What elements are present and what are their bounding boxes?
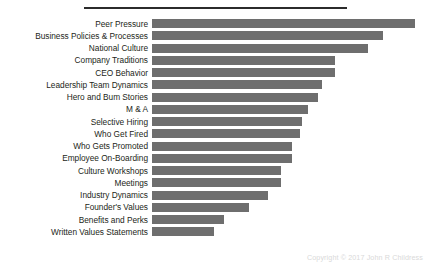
- bar-category-label: Employee On-Boarding: [0, 153, 148, 163]
- bar-category-label: Culture Workshops: [0, 166, 148, 176]
- bar-category-label: Selective Hiring: [0, 117, 148, 127]
- bar-fill: [152, 215, 224, 224]
- bar-category-label: Who Get Fired: [0, 129, 148, 139]
- bar-row: Meetings: [0, 178, 433, 190]
- bar-track: [152, 68, 335, 77]
- bar-row: Who Get Fired: [0, 129, 433, 141]
- bar-track: [152, 56, 335, 65]
- bar-category-label: Benefits and Perks: [0, 215, 148, 225]
- bar-fill: [152, 93, 318, 102]
- bar-fill: [152, 191, 268, 200]
- bar-row: Who Gets Promoted: [0, 142, 433, 154]
- bar-track: [152, 117, 302, 126]
- bar-row: Peer Pressure: [0, 19, 433, 31]
- bar-category-label: Founder's Values: [0, 202, 148, 212]
- bar-track: [152, 178, 281, 187]
- bar-category-label: Who Gets Promoted: [0, 141, 148, 151]
- culture-drivers-bar-chart: Peer PressureBusiness Policies & Process…: [0, 0, 433, 272]
- bar-row: Hero and Bum Stories: [0, 93, 433, 105]
- bar-row: Founder's Values: [0, 203, 433, 215]
- bar-fill: [152, 80, 322, 89]
- bar-row: Culture Workshops: [0, 166, 433, 178]
- chart-plot-area: Peer PressureBusiness Policies & Process…: [0, 19, 433, 259]
- bar-track: [152, 227, 214, 236]
- bar-track: [152, 129, 300, 138]
- bar-fill: [152, 44, 368, 53]
- bar-fill: [152, 56, 335, 65]
- bar-fill: [152, 129, 300, 138]
- bar-track: [152, 203, 249, 212]
- bar-row: Written Values Statements: [0, 227, 433, 239]
- bar-fill: [152, 19, 415, 28]
- bar-track: [152, 93, 318, 102]
- bar-row: Company Traditions: [0, 56, 433, 68]
- copyright-notice: Copyright © 2017 John R Childress: [307, 253, 423, 262]
- bar-track: [152, 166, 281, 175]
- bar-track: [152, 215, 224, 224]
- bar-track: [152, 19, 415, 28]
- bar-row: M & A: [0, 105, 433, 117]
- bar-row: CEO Behavior: [0, 68, 433, 80]
- bar-category-label: Written Values Statements: [0, 227, 148, 237]
- bar-fill: [152, 154, 292, 163]
- bar-category-label: Hero and Bum Stories: [0, 92, 148, 102]
- bar-track: [152, 105, 308, 114]
- bar-fill: [152, 68, 335, 77]
- bar-row: Selective Hiring: [0, 117, 433, 129]
- bar-track: [152, 31, 383, 40]
- bar-category-label: Meetings: [0, 178, 148, 188]
- bar-category-label: Peer Pressure: [0, 19, 148, 29]
- bar-category-label: Leadership Team Dynamics: [0, 80, 148, 90]
- bar-track: [152, 191, 268, 200]
- bar-fill: [152, 178, 281, 187]
- bar-row: Benefits and Perks: [0, 215, 433, 227]
- bar-category-label: CEO Behavior: [0, 68, 148, 78]
- bar-fill: [152, 203, 249, 212]
- bar-row: Employee On-Boarding: [0, 154, 433, 166]
- bar-row: Leadership Team Dynamics: [0, 80, 433, 92]
- bar-track: [152, 142, 292, 151]
- bar-fill: [152, 227, 214, 236]
- bar-category-label: Company Traditions: [0, 55, 148, 65]
- bar-row: Business Policies & Processes: [0, 31, 433, 43]
- bar-track: [152, 154, 292, 163]
- bar-category-label: Industry Dynamics: [0, 190, 148, 200]
- bar-fill: [152, 166, 281, 175]
- bar-track: [152, 80, 322, 89]
- bar-category-label: M & A: [0, 104, 148, 114]
- top-divider-rule: [84, 7, 347, 9]
- bar-fill: [152, 105, 308, 114]
- bar-row: National Culture: [0, 44, 433, 56]
- bar-row: Industry Dynamics: [0, 191, 433, 203]
- bar-fill: [152, 31, 383, 40]
- bar-category-label: National Culture: [0, 43, 148, 53]
- bar-fill: [152, 142, 292, 151]
- bar-track: [152, 44, 368, 53]
- bar-category-label: Business Policies & Processes: [0, 31, 148, 41]
- bar-fill: [152, 117, 302, 126]
